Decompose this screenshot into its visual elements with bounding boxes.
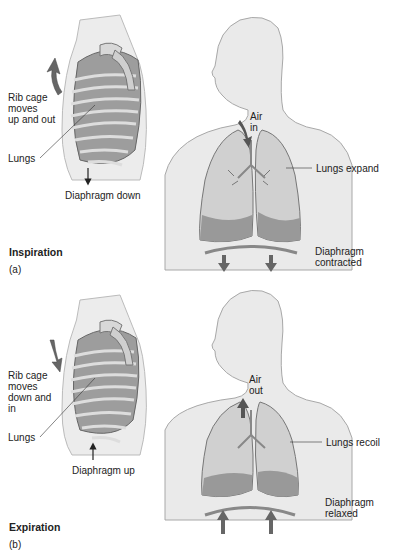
respiration-diagram bbox=[0, 0, 394, 552]
panel-letter-b: (b) bbox=[9, 539, 21, 550]
air-in-label: Air in bbox=[250, 111, 262, 133]
ribcage-down-arrow-icon bbox=[50, 340, 62, 372]
ribcage-label-a: Rib cage moves up and out bbox=[8, 92, 55, 125]
lungs-label-a: Lungs bbox=[8, 153, 35, 164]
lungs-label-b: Lungs bbox=[8, 432, 35, 443]
ribcage-label-b: Rib cage moves down and in bbox=[8, 370, 51, 414]
ribcage-illustration-b bbox=[62, 295, 146, 455]
diaphragm-up-label: Diaphragm up bbox=[72, 465, 135, 476]
ribcage-up-arrow-icon bbox=[47, 58, 62, 95]
air-out-label: Air out bbox=[249, 374, 263, 396]
expiration-title: Expiration bbox=[9, 522, 60, 533]
inspiration-title: Inspiration bbox=[9, 247, 63, 258]
lungs-expand-label: Lungs expand bbox=[316, 163, 379, 174]
panel-letter-a: (a) bbox=[9, 264, 21, 275]
lungs-recoil-label: Lungs recoil bbox=[326, 437, 380, 448]
diaphragm-down-label: Diaphragm down bbox=[65, 190, 141, 201]
diaphragm-relaxed-label: Diaphragm relaxed bbox=[325, 497, 374, 519]
ribcage-illustration-a bbox=[62, 15, 146, 180]
diaphragm-contracted-label: Diaphragm contracted bbox=[315, 246, 364, 268]
